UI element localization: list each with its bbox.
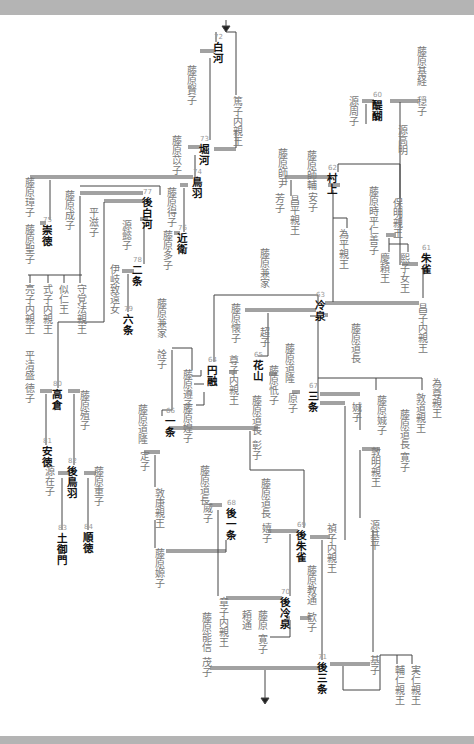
- emperor-node[interactable]: 村上: [325, 173, 336, 195]
- emperor-node[interactable]: 三条: [306, 391, 317, 413]
- relative-node[interactable]: 藤原苡子: [170, 135, 181, 175]
- emperor-node[interactable]: 二条: [130, 265, 141, 287]
- relative-node[interactable]: 超子: [258, 327, 269, 347]
- relative-node[interactable]: 源基平: [368, 520, 379, 550]
- relative-node[interactable]: 藤原道長: [349, 323, 360, 363]
- relative-node[interactable]: 藤原忯子: [267, 365, 278, 405]
- emperor-node[interactable]: 醍醐: [370, 100, 381, 122]
- relative-node[interactable]: 藤原多子: [161, 230, 172, 270]
- emperor-node[interactable]: 堀河: [197, 144, 208, 166]
- relative-node[interactable]: 藤原媓子: [181, 403, 192, 443]
- emperor-node[interactable]: 後冷泉: [278, 597, 289, 630]
- relative-node[interactable]: 藤原師尹: [276, 148, 287, 188]
- emperor-node[interactable]: 近衛: [175, 233, 186, 255]
- relative-node[interactable]: 昌平親王: [288, 195, 299, 235]
- relative-node[interactable]: 藤原兼家: [258, 248, 269, 288]
- relative-node[interactable]: 敦康親王: [153, 488, 164, 528]
- relative-node[interactable]: 保明親王: [391, 198, 402, 238]
- relative-node[interactable]: 実仁親王: [409, 665, 420, 705]
- relative-node[interactable]: 藤原道隆: [283, 343, 294, 383]
- relative-node[interactable]: 昌子内親王: [416, 303, 427, 353]
- relative-node[interactable]: 基子: [368, 655, 379, 675]
- relative-node[interactable]: 似仁王: [57, 284, 68, 314]
- relative-node[interactable]: 安子: [306, 192, 317, 212]
- relative-node[interactable]: 穏子: [415, 96, 426, 116]
- emperor-node[interactable]: 高倉: [50, 389, 61, 411]
- emperor-node[interactable]: 安徳: [40, 446, 51, 468]
- relative-node[interactable]: 伊岐致遠女: [108, 264, 119, 314]
- relative-node[interactable]: 頼通: [240, 610, 251, 630]
- relative-node[interactable]: 詮子: [155, 349, 166, 369]
- relative-node[interactable]: 藤原娍子: [375, 395, 386, 435]
- relative-node[interactable]: 定子: [138, 451, 149, 471]
- relative-node[interactable]: 嬉子: [260, 523, 271, 543]
- relative-node[interactable]: 尊子内親王: [227, 355, 238, 405]
- relative-node[interactable]: 藤原殖子: [78, 390, 89, 430]
- relative-node[interactable]: 藤原得子: [165, 187, 176, 227]
- relative-node[interactable]: 禎子内親王: [325, 523, 336, 573]
- relative-node[interactable]: 守覚法親王: [75, 284, 86, 334]
- relative-node[interactable]: 寛子: [256, 634, 267, 654]
- relative-node[interactable]: 藤原重子: [92, 466, 103, 506]
- relative-node[interactable]: 藤原嫄子: [153, 548, 164, 588]
- relative-node[interactable]: 藤原懐子: [229, 303, 240, 343]
- relative-node[interactable]: 芳子: [273, 193, 284, 213]
- relative-node[interactable]: 徳子: [23, 383, 34, 403]
- relative-node[interactable]: 藤原璋子: [23, 177, 34, 217]
- relative-node[interactable]: 藤原兼家: [155, 298, 166, 338]
- relative-node[interactable]: 章子内親王: [217, 597, 228, 647]
- relative-node[interactable]: 源周子: [347, 96, 358, 126]
- relative-node[interactable]: 藤原教通: [305, 565, 316, 605]
- relative-node[interactable]: 源在子: [43, 466, 54, 496]
- relative-node[interactable]: 歓子: [305, 612, 316, 632]
- relative-node[interactable]: 藤原時平: [367, 186, 378, 226]
- emperor-node[interactable]: 順徳: [81, 532, 92, 554]
- emperor-node[interactable]: 円融: [205, 365, 216, 387]
- relative-node[interactable]: 為平親王: [337, 229, 348, 269]
- emperor-node[interactable]: 後鳥羽: [65, 466, 76, 499]
- relative-node[interactable]: 娍子: [350, 402, 361, 422]
- relative-node[interactable]: 茂子: [200, 657, 211, 677]
- relative-node[interactable]: 藤原道長: [250, 395, 261, 435]
- emperor-node[interactable]: 白河: [211, 42, 222, 64]
- emperor-node[interactable]: 土御門: [55, 533, 66, 566]
- relative-node[interactable]: 敦道親王: [414, 393, 425, 433]
- relative-node[interactable]: 威子: [201, 503, 212, 523]
- relative-node[interactable]: 亮子内親王: [23, 284, 34, 334]
- relative-node[interactable]: 仁善子: [367, 225, 378, 255]
- emperor-node[interactable]: 花山: [251, 360, 262, 382]
- relative-node[interactable]: 藤原能信: [200, 612, 211, 652]
- relative-node[interactable]: 篤子内親王: [231, 96, 242, 146]
- emperor-node[interactable]: 後一条: [224, 508, 235, 541]
- relative-node[interactable]: 藤原聖子: [23, 224, 34, 264]
- relative-node[interactable]: 原子: [286, 393, 297, 413]
- emperor-node[interactable]: 鳥羽: [190, 177, 201, 199]
- relative-node[interactable]: 彰子: [250, 440, 261, 460]
- emperor-node[interactable]: 後白河: [140, 197, 151, 230]
- relative-node[interactable]: 源高明: [396, 125, 407, 155]
- relative-node[interactable]: 藤原師輔: [305, 150, 316, 190]
- relative-node[interactable]: 藤原賢子: [185, 65, 196, 105]
- relative-node[interactable]: 輔仁親王: [393, 665, 404, 705]
- relative-node[interactable]: 平清盛: [23, 350, 34, 380]
- emperor-node[interactable]: 後朱雀: [294, 530, 305, 563]
- relative-node[interactable]: 式子内親王: [41, 284, 52, 334]
- relative-node[interactable]: 藤原道隆: [136, 404, 147, 444]
- relative-node[interactable]: 平滋子: [87, 207, 98, 237]
- relative-node[interactable]: 藤原道長: [198, 465, 209, 505]
- relative-node[interactable]: 寛子: [398, 452, 409, 472]
- emperor-node[interactable]: 後三条: [315, 662, 326, 695]
- relative-node[interactable]: 敦明親王: [369, 447, 380, 487]
- emperor-node[interactable]: 朱雀: [419, 253, 430, 275]
- relative-node[interactable]: 藤原基経: [415, 46, 426, 86]
- emperor-node[interactable]: 崇徳: [40, 225, 51, 247]
- relative-node[interactable]: 藤原成子: [63, 190, 74, 230]
- relative-node[interactable]: 為尊親王: [430, 378, 441, 418]
- emperor-node[interactable]: 一条: [163, 416, 174, 438]
- relative-node[interactable]: 藤原: [256, 610, 267, 630]
- emperor-node[interactable]: 六条: [121, 314, 132, 336]
- emperor-node[interactable]: 冷泉: [313, 300, 324, 322]
- relative-node[interactable]: 藤原道長: [259, 478, 270, 518]
- relative-node[interactable]: 藤原道長: [398, 409, 409, 449]
- relative-node[interactable]: 慶頼王: [378, 253, 389, 283]
